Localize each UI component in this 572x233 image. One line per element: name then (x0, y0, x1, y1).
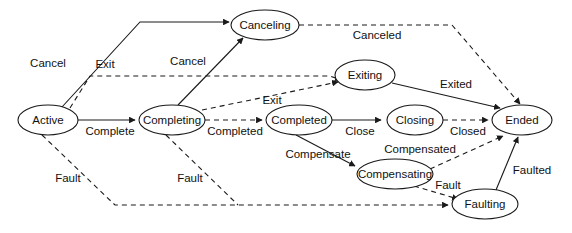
edge-label-canceled: Canceled (353, 29, 402, 41)
state-node-exiting[interactable]: Exiting (335, 60, 395, 90)
edge-label-cancel-completing: Cancel (170, 55, 206, 67)
edge-completing-faulting: Fault (166, 135, 238, 205)
edge-label-faulted: Faulted (513, 164, 551, 176)
edge-path (166, 135, 238, 205)
edge-completing-completed: Completed (205, 120, 263, 137)
edge-path (178, 38, 243, 105)
state-node-faulting[interactable]: Faulting (452, 189, 518, 219)
node-label-completing: Completing (143, 114, 201, 126)
edge-label-cancel-active: Cancel (30, 57, 66, 69)
node-label-exiting: Exiting (348, 69, 383, 81)
state-node-compensating[interactable]: Compensating (357, 159, 433, 189)
state-node-completing[interactable]: Completing (139, 105, 205, 135)
state-node-completed[interactable]: Completed (266, 105, 332, 135)
state-node-ended[interactable]: Ended (492, 105, 552, 135)
state-diagram-canvas: Cancel Exit Complete Fault Cancel Exit (0, 0, 572, 233)
node-label-compensating: Compensating (358, 168, 432, 180)
edge-path (299, 25, 520, 104)
node-label-active: Active (32, 114, 63, 126)
edge-completing-canceling: Cancel (170, 38, 243, 105)
edge-label-compensate: Compensate (285, 148, 350, 160)
edge-label-complete: Complete (85, 125, 134, 137)
edge-closing-ended: Closed (443, 120, 488, 137)
edge-faulting-ended: Faulted (496, 137, 551, 190)
edge-active-completing: Complete (78, 120, 135, 137)
node-label-canceling: Canceling (239, 19, 290, 31)
node-label-faulting: Faulting (465, 198, 506, 210)
edge-exiting-ended: Exited (392, 78, 500, 108)
node-label-closing: Closing (396, 114, 434, 126)
state-node-closing[interactable]: Closing (387, 105, 443, 135)
edge-completed-compensating: Compensate (285, 135, 355, 166)
edge-label-fault-compensating: Fault (435, 179, 461, 191)
edge-label-close: Close (345, 125, 374, 137)
edge-label-exit-completing: Exit (262, 94, 282, 106)
state-node-canceling[interactable]: Canceling (231, 10, 299, 40)
edge-completing-exiting: Exit (202, 82, 338, 110)
edge-label-completed: Completed (207, 125, 263, 137)
edge-label-fault-completing: Fault (177, 172, 203, 184)
edge-label-exit-active: Exit (95, 58, 115, 70)
edge-path (70, 76, 341, 108)
edge-label-exited: Exited (440, 78, 472, 90)
edge-canceling-ended: Canceled (299, 25, 520, 104)
node-label-ended: Ended (505, 114, 538, 126)
edge-label-compensated: Compensated (384, 143, 456, 155)
state-node-active[interactable]: Active (18, 105, 78, 135)
edge-label-closed: Closed (450, 125, 486, 137)
node-label-completed: Completed (271, 114, 327, 126)
state-machine-diagram: Cancel Exit Complete Fault Cancel Exit (0, 0, 572, 233)
edge-label-fault-active: Fault (55, 172, 81, 184)
edge-completed-closing: Close (332, 120, 381, 137)
